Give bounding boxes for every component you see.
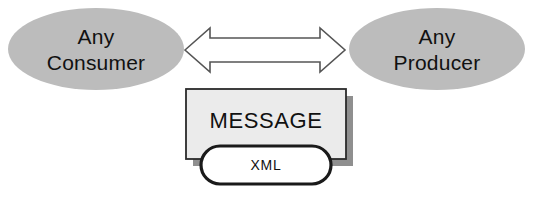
bidirectional-arrow-shape: [185, 28, 345, 72]
consumer-label-line2: Consumer: [47, 51, 145, 74]
message-label: MESSAGE: [209, 108, 322, 133]
consumer-label-line1: Any: [78, 25, 115, 48]
producer-node[interactable]: Any Producer: [349, 8, 525, 90]
producer-ellipse-shape: [349, 8, 525, 90]
diagram-canvas: Any Consumer Any Producer MESSAGE XML: [0, 0, 536, 199]
bidirectional-arrow: [185, 28, 345, 72]
consumer-ellipse-shape: [8, 8, 184, 90]
xml-node[interactable]: XML: [201, 146, 331, 184]
consumer-node[interactable]: Any Consumer: [8, 8, 184, 90]
producer-label-line1: Any: [419, 25, 456, 48]
diagram-svg: Any Consumer Any Producer MESSAGE XML: [0, 0, 536, 199]
xml-label: XML: [250, 157, 281, 173]
producer-label-line2: Producer: [394, 51, 481, 74]
